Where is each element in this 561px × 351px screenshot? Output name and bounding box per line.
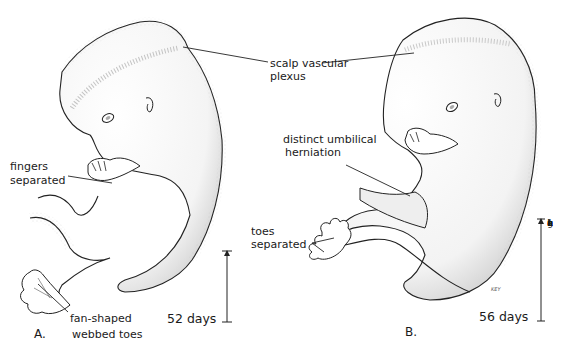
leader-umbilical [346, 165, 410, 196]
label-distinct-umbilical: distinct umbilical [283, 133, 377, 146]
label-scalp-vascular: scalp vascular [270, 57, 348, 70]
illustration-artwork [0, 0, 561, 351]
label-toes: toes [251, 225, 275, 238]
panel-a-letter: A. [34, 328, 46, 341]
actual-length-char: h [546, 219, 554, 229]
embryo-a [21, 21, 223, 313]
label-separated-fingers: separated [10, 174, 66, 187]
label-herniation: herniation [285, 146, 341, 159]
embryo-a-hand [88, 158, 140, 181]
panel-b-age: 56 days [479, 310, 528, 323]
panel-b-letter: B. [405, 326, 417, 339]
label-plexus: plexus [270, 70, 306, 83]
label-toes-separated: separated [251, 238, 307, 251]
panel-a-age: 52 days [167, 312, 216, 325]
label-webbed-toes: webbed toes [72, 328, 143, 341]
label-fan-shaped: fan-shaped [70, 312, 132, 325]
label-fingers: fingers [10, 160, 48, 173]
scale-bar-b [537, 218, 545, 321]
artist-signature: KEY [491, 286, 501, 292]
embryo-a-arm [38, 195, 98, 215]
embryo-illustration-figure: scalp vascular plexus fingers separated … [0, 0, 561, 351]
scale-bar-a [222, 250, 232, 322]
